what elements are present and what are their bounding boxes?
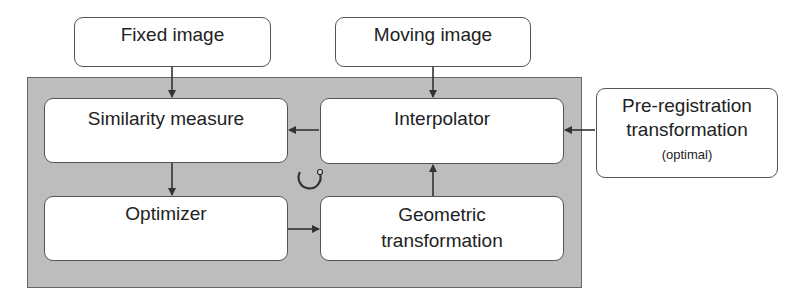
moving-image-box: Moving image xyxy=(335,17,531,67)
geometric-transformation-box: Geometric transformation xyxy=(320,196,564,261)
similarity-measure-label: Similarity measure xyxy=(45,107,287,131)
moving-image-label: Moving image xyxy=(336,23,530,47)
optimizer-label: Optimizer xyxy=(45,202,287,226)
similarity-measure-box: Similarity measure xyxy=(44,98,288,163)
fixed-image-box: Fixed image xyxy=(74,17,271,67)
pre-registration-line1: Pre-registration xyxy=(597,94,777,118)
interpolator-label: Interpolator xyxy=(321,107,563,131)
optimizer-box: Optimizer xyxy=(44,196,288,261)
fixed-image-label: Fixed image xyxy=(75,23,270,47)
pre-registration-box: Pre-registration transformation (optimal… xyxy=(596,88,778,178)
pre-registration-line2: transformation xyxy=(597,118,777,142)
pre-registration-note: (optimal) xyxy=(597,146,777,164)
geometric-transformation-line2: transformation xyxy=(321,229,563,253)
interpolator-box: Interpolator xyxy=(320,98,564,164)
geometric-transformation-line1: Geometric xyxy=(321,203,563,227)
